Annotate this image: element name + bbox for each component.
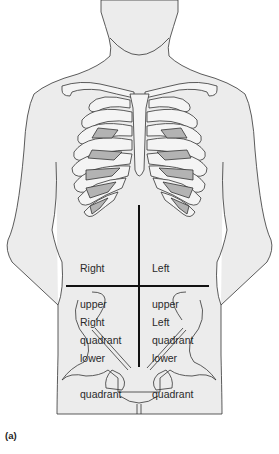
torso-diagram <box>0 0 279 454</box>
rlq-line3: quadrant <box>80 388 121 400</box>
luq-line1: Left <box>152 262 193 274</box>
rlq-line1: Right <box>80 316 121 328</box>
llq-line3: quadrant <box>152 388 193 400</box>
rlq-line2: lower <box>80 352 121 364</box>
label-right-lower-quadrant: Right lower quadrant <box>80 292 121 412</box>
ruq-line1: Right <box>80 262 121 274</box>
panel-label: (a) <box>5 430 17 441</box>
label-left-lower-quadrant: Left lower quadrant <box>152 292 193 412</box>
llq-line2: lower <box>152 352 193 364</box>
llq-line1: Left <box>152 316 193 328</box>
